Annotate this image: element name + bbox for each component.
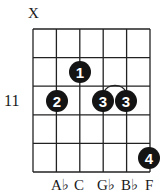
finger-dot-3b: 3 bbox=[115, 90, 137, 112]
note-label-string-2: A♭ bbox=[51, 178, 69, 193]
finger-dot-2: 2 bbox=[46, 90, 68, 112]
finger-dot-3a: 3 bbox=[92, 90, 114, 112]
finger-dot-1: 1 bbox=[69, 61, 91, 83]
note-label-string-5: B♭ bbox=[121, 178, 138, 193]
note-label-string-6: F bbox=[145, 178, 153, 193]
finger-dot-4: 4 bbox=[138, 147, 160, 169]
muted-string-marker: X bbox=[28, 6, 39, 21]
note-label-string-4: G♭ bbox=[97, 178, 115, 193]
note-label-string-3: C bbox=[74, 178, 84, 193]
fretboard-grid bbox=[0, 0, 163, 196]
fret-position-label: 11 bbox=[4, 93, 19, 109]
